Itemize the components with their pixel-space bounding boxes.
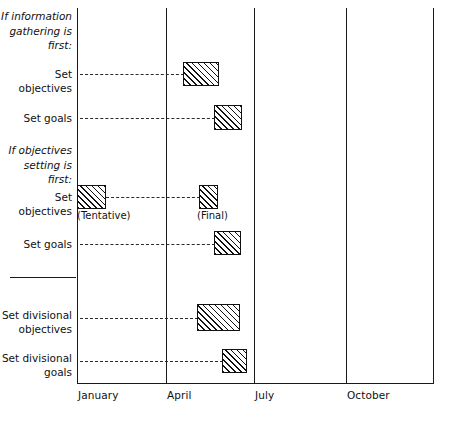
bar-set-objectives-info-first — [183, 62, 219, 86]
connector-set-goals-info-first — [80, 118, 215, 119]
row-label-set-goals-info-first: Set goals — [0, 111, 72, 125]
bar-set-goals-obj-first — [214, 231, 241, 255]
bar-set-objectives-final — [199, 185, 218, 209]
connector-set-divisional-goals — [80, 361, 223, 362]
bar-set-divisional-objectives — [197, 304, 240, 331]
axis-tick-october: October — [347, 389, 390, 401]
group-heading-objectives-first: If objectives setting is first: — [0, 143, 72, 187]
axis-tick-april: April — [167, 389, 192, 401]
gridline-october — [346, 8, 347, 383]
row-label-set-divisional-objectives: Set divisional objectives — [0, 308, 72, 336]
row-label-set-divisional-goals: Set divisional goals — [0, 351, 72, 379]
axis-tick-january: January — [78, 389, 119, 401]
gantt-chart: January April July October If informatio… — [0, 0, 449, 421]
axis-tick-july: July — [255, 389, 274, 401]
bar-set-goals-info-first — [214, 105, 242, 130]
label-gutter-separator — [10, 277, 76, 278]
gridline-april — [166, 8, 167, 383]
note-final: (Final) — [197, 210, 228, 221]
row-label-set-objectives-obj-first: Set objectives — [0, 190, 72, 218]
bar-set-objectives-tentative — [77, 185, 106, 209]
connector-set-divisional-objectives — [80, 318, 198, 319]
bar-set-divisional-goals — [222, 349, 247, 373]
gridline-july — [254, 8, 255, 383]
gridline-right-edge — [433, 8, 434, 383]
connector-set-objectives-info-first — [80, 74, 184, 75]
note-tentative: (Tentative) — [77, 210, 131, 221]
row-label-set-goals-obj-first: Set goals — [0, 237, 72, 251]
axis-baseline — [77, 383, 434, 384]
group-heading-information-first: If information gathering is first: — [0, 9, 72, 53]
row-label-set-objectives-info-first: Set objectives — [0, 67, 72, 95]
connector-tentative-to-final — [106, 197, 200, 198]
connector-set-goals-obj-first — [80, 244, 215, 245]
